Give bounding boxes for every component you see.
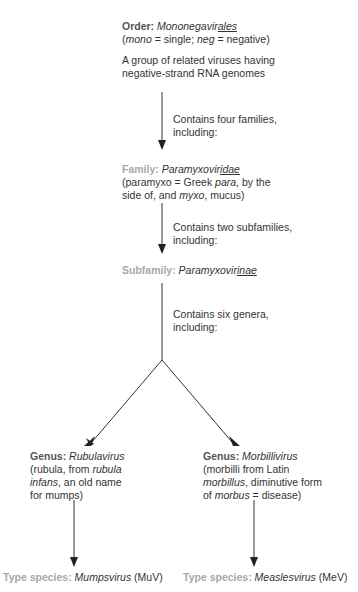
genus-etymology: (rubula, from rubula infans, an old name… [30,463,130,502]
species-abbr: (MeV) [319,571,348,583]
genus-name: Rubulavirus [69,450,124,462]
connector-lines [0,0,358,592]
species-abbr: (MuV) [134,571,163,583]
genus-label: Genus: [203,450,239,462]
order-name: Mononegavirales [157,20,237,32]
genus-right-block: Genus: Morbillivirus (morbilli from Lati… [203,450,333,502]
family-etymology: (paramyxo = Greek para, by the side of, … [122,176,287,202]
species-label: Type species: [3,571,72,583]
subfamily-name: Paramyxovirinae [179,264,257,276]
genus-label: Genus: [30,450,66,462]
species-right: Type species: Measlesvirus (MeV) [183,571,347,584]
arrow2-annotation: Contains two subfamilies, including: [173,221,303,247]
genus-left-block: Genus: Rubulavirus (rubula, from rubula … [30,450,130,502]
order-description: A group of related viruses having negati… [122,54,292,80]
species-left: Type species: Mumpsvirus (MuV) [3,571,163,584]
order-etymology: (mono = single; neg = negative) [122,33,322,46]
family-name: Paramyxoviridae [162,163,240,175]
species-name: Mumpsvirus [75,571,132,583]
subfamily-block: Subfamily: Paramyxovirinae [122,264,322,277]
family-label: Family: [122,163,159,175]
order-label: Order: [122,20,154,32]
species-label: Type species: [183,571,252,583]
species-name: Measlesvirus [255,571,316,583]
genus-name: Morbillivirus [242,450,297,462]
arrow3-annotation: Contains six genera, including: [173,308,293,334]
arrow1-annotation: Contains four families, including: [173,113,293,139]
family-block: Family: Paramyxoviridae (paramyxo = Gree… [122,163,322,202]
genus-etymology: (morbilli from Latin morbillus, diminuti… [203,463,333,502]
subfamily-label: Subfamily: [122,264,176,276]
order-block: Order: Mononegavirales (mono = single; n… [122,20,322,80]
